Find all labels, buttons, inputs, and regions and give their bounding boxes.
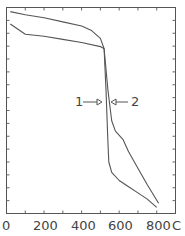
arrow-2-head: [111, 99, 116, 105]
x-tick-200: 200: [33, 218, 58, 233]
tga-chart: 1 2 0 200 400 600 800 C: [0, 0, 185, 236]
x-tick-400: 400: [71, 218, 96, 233]
curve-1: [10, 24, 156, 207]
curves: [10, 12, 158, 208]
x-unit-label: C: [172, 218, 181, 233]
axis-ticks: [7, 8, 176, 214]
x-tick-0: 0: [2, 218, 10, 233]
x-tick-600: 600: [108, 218, 133, 233]
annotation-label-2: 2: [131, 94, 139, 109]
plot-frame: [7, 8, 176, 214]
arrow-1-head: [97, 99, 102, 105]
x-tick-800: 800: [146, 218, 171, 233]
annotation-label-1: 1: [75, 94, 83, 109]
